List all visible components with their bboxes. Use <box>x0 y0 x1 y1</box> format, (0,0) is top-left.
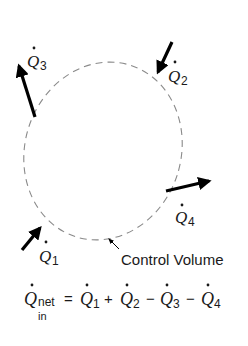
svg-text:2: 2 <box>181 74 188 88</box>
svg-text:Q: Q <box>80 289 93 309</box>
q4-label: Q 4 <box>175 204 195 229</box>
svg-text:Q: Q <box>24 289 37 309</box>
svg-text:3: 3 <box>40 59 47 73</box>
svg-text:Q: Q <box>160 289 173 309</box>
q1-label: Q 1 <box>39 241 59 268</box>
svg-text:Q: Q <box>168 67 180 86</box>
q3-arrow-icon <box>19 66 35 117</box>
svg-text:4: 4 <box>214 297 221 311</box>
svg-text:1: 1 <box>93 297 100 311</box>
control-volume-diagram: Q 3 Q 2 Q 4 Q 1 Control Volume Q net in … <box>0 0 248 346</box>
svg-text:−: − <box>146 290 155 307</box>
q4-arrow-icon <box>166 181 209 191</box>
svg-text:Q: Q <box>39 247 51 266</box>
energy-balance-equation: Q net in = Q 1 + Q 2 − Q 3 − Q 4 <box>24 284 221 322</box>
svg-text:3: 3 <box>173 297 180 311</box>
q1-arrow-icon <box>22 228 40 250</box>
svg-text:2: 2 <box>133 297 140 311</box>
svg-text:1: 1 <box>52 254 59 268</box>
svg-text:Q: Q <box>27 52 39 71</box>
svg-text:+: + <box>104 290 113 307</box>
svg-text:net: net <box>38 295 55 309</box>
control-volume-label: Control Volume <box>121 251 224 268</box>
control-volume-leader-arrow-icon <box>109 239 119 249</box>
svg-text:Q: Q <box>120 289 133 309</box>
svg-text:in: in <box>38 310 47 322</box>
q3-label: Q 3 <box>27 47 47 73</box>
svg-text:4: 4 <box>188 215 195 229</box>
svg-text:Q: Q <box>201 289 214 309</box>
svg-text:−: − <box>186 290 195 307</box>
svg-text:=: = <box>64 290 73 307</box>
svg-text:Q: Q <box>175 208 187 227</box>
q2-label: Q 2 <box>168 61 188 88</box>
